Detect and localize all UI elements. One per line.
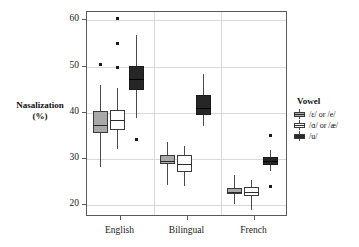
whisker-upper (234, 175, 235, 187)
boxplot-bilingual-series3 (196, 12, 211, 217)
boxplot-french-series1 (227, 12, 242, 217)
outlier-point (269, 185, 272, 188)
boxplot-french-series3 (263, 12, 278, 217)
y-tick-label: 50 (53, 60, 79, 70)
whisker-upper (100, 85, 101, 112)
outlier-point (116, 42, 119, 45)
legend-items: /ɛ/ or /e//ɑ/ or /æ//u/ (293, 109, 359, 141)
outlier-point (135, 138, 138, 141)
whisker-upper (117, 88, 118, 110)
whisker-lower (117, 130, 118, 149)
box-iqr (93, 111, 108, 133)
median-line (227, 192, 242, 193)
legend-item-1[interactable]: /ɛ/ or /e/ (293, 109, 359, 119)
legend-key-stem-bottom (299, 139, 300, 142)
whisker-lower (251, 196, 252, 210)
median-line (244, 192, 259, 193)
y-tick-label: 40 (53, 106, 79, 116)
legend-label: /ɛ/ or /e/ (309, 110, 335, 119)
median-line (177, 164, 192, 165)
x-tick-label-french: French (240, 225, 266, 235)
x-tick-mark (254, 216, 255, 220)
outlier-point (269, 134, 272, 137)
legend-key-median (294, 136, 305, 137)
gridline-vertical (154, 12, 155, 215)
gridline-vertical (221, 12, 222, 215)
median-line (93, 125, 108, 126)
whisker-upper (203, 74, 204, 95)
whisker-upper (251, 180, 252, 187)
boxplot-bilingual-series1 (160, 12, 175, 217)
legend: Vowel /ɛ/ or /e//ɑ/ or /æ//u/ (293, 96, 359, 142)
boxplot-french-series2 (244, 12, 259, 217)
whisker-lower (167, 164, 168, 184)
box-iqr (196, 95, 211, 115)
box-iqr (129, 66, 144, 91)
boxplot-english-series1 (93, 12, 108, 217)
legend-item-3[interactable]: /u/ (293, 131, 359, 141)
outlier-point (116, 66, 119, 69)
legend-item-2[interactable]: /ɑ/ or /æ/ (293, 120, 359, 130)
x-tick-label-bilingual: Bilingual (169, 225, 204, 235)
whisker-lower (136, 90, 137, 118)
plot-panel (86, 11, 287, 216)
y-tick-label: 30 (53, 152, 79, 162)
boxplot-bilingual-series2 (177, 12, 192, 217)
whisker-lower (100, 133, 101, 166)
whisker-upper (270, 150, 271, 157)
boxplot-figure: Nasalization (%) 2030405060 EnglishBilin… (0, 0, 359, 247)
whisker-lower (234, 194, 235, 203)
whisker-upper (136, 35, 137, 66)
boxplot-english-series3 (129, 12, 144, 217)
legend-label: /ɑ/ or /æ/ (309, 121, 338, 130)
legend-label: /u/ (309, 132, 317, 141)
x-tick-mark (120, 216, 121, 220)
black-box-key (293, 131, 306, 141)
median-line (129, 79, 144, 80)
x-tick-label-english: English (105, 225, 134, 235)
boxplot-english-series2 (110, 12, 125, 217)
legend-key-median (294, 114, 305, 115)
median-line (110, 120, 125, 121)
x-tick-mark (187, 216, 188, 220)
outlier-point (99, 63, 102, 66)
median-line (160, 161, 175, 162)
median-line (196, 108, 211, 109)
median-line (263, 161, 278, 162)
legend-key-stem-bottom (299, 128, 300, 131)
legend-key-median (294, 125, 305, 126)
whisker-upper (184, 146, 185, 156)
legend-title: Vowel (297, 96, 359, 106)
whisker-upper (167, 142, 168, 155)
whisker-lower (203, 115, 204, 126)
y-tick-label: 20 (53, 198, 79, 208)
box-iqr (160, 155, 175, 165)
outlier-point (116, 17, 119, 20)
whisker-lower (184, 172, 185, 185)
grey-box-key (293, 109, 306, 119)
y-tick-label: 60 (53, 13, 79, 23)
whisker-lower (270, 165, 271, 171)
legend-key-stem-bottom (299, 117, 300, 120)
white-box-key (293, 120, 306, 130)
